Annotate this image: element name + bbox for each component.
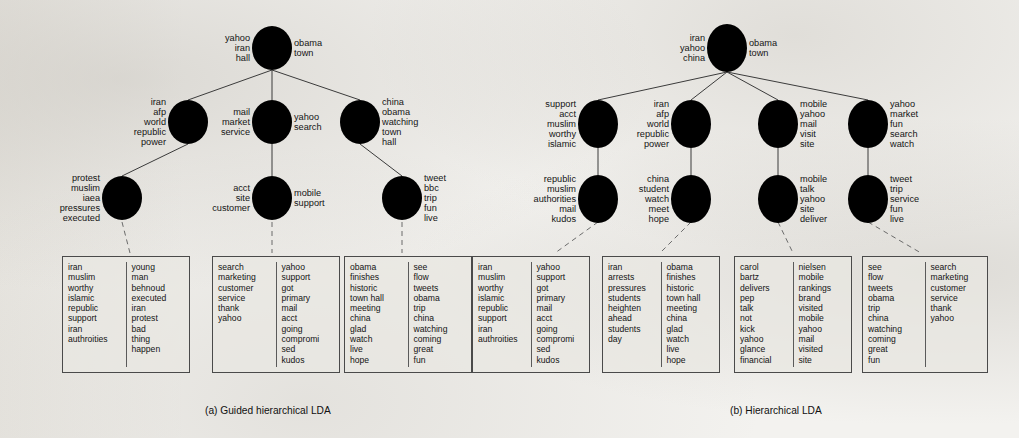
topic-word: hope <box>350 355 403 365</box>
topic-word: yahoo <box>218 313 271 323</box>
topic-node[interactable] <box>168 100 208 144</box>
topic-word: support <box>68 313 121 323</box>
topic-word: not <box>740 313 788 323</box>
topic-word-column: obamafinisheshistorictown hallmeetingchi… <box>345 262 408 367</box>
topic-word: finishes <box>667 272 715 282</box>
topic-node-word: iran <box>654 99 669 109</box>
topic-node[interactable] <box>758 175 798 223</box>
topic-word: islamic <box>478 293 526 303</box>
topic-word: man <box>132 272 185 282</box>
topic-word: trip <box>414 303 467 313</box>
topic-node[interactable] <box>252 100 292 144</box>
topic-word: watching <box>414 324 467 334</box>
topic-word: mail <box>282 303 335 313</box>
topic-node-word: pressures <box>60 203 101 213</box>
topic-node-word: fun <box>890 204 903 214</box>
topic-word: islamic <box>68 293 121 303</box>
topic-node-word: hope <box>649 214 669 224</box>
topic-word: glad <box>350 324 403 334</box>
topic-node-word: mobile <box>294 188 321 198</box>
tree-edge <box>727 72 778 100</box>
topic-node-word: muslim <box>547 119 576 129</box>
topic-node[interactable] <box>252 26 292 70</box>
topic-node[interactable] <box>340 100 380 144</box>
topic-word: marketing <box>218 272 271 282</box>
topic-node-word: watch <box>889 139 914 149</box>
topic-word: going <box>282 324 335 334</box>
tree-edge <box>727 72 868 100</box>
topic-node-word: power <box>141 137 166 147</box>
topic-node-word: trip <box>890 184 903 194</box>
topic-word: hope <box>667 355 715 365</box>
topic-node[interactable] <box>252 176 292 220</box>
topic-node-word: live <box>424 213 438 223</box>
topic-node-word: kudos <box>551 214 576 224</box>
topic-word: mobile <box>799 313 847 323</box>
topic-node-word: market <box>222 117 251 127</box>
topic-word: day <box>608 334 656 344</box>
topic-word: acct <box>282 313 335 323</box>
topic-leader-line <box>122 222 130 253</box>
topic-node[interactable] <box>707 24 747 72</box>
figure-caption-a: (a) Guided hierarchical LDA <box>205 405 331 416</box>
topic-node-word: fun <box>890 119 903 129</box>
topic-word: search <box>218 262 271 272</box>
figure-hierarchical-lda: yahooiranhallobamatowniranafpworldrepubl… <box>0 0 1019 438</box>
topic-node-word: acct <box>233 183 250 193</box>
topic-node[interactable] <box>671 100 711 148</box>
topic-word: kudos <box>282 355 335 365</box>
topic-word: rankings <box>799 283 847 293</box>
topic-node-word: obama <box>382 107 411 117</box>
topic-word: brand <box>799 293 847 303</box>
topic-node-word: republic <box>544 174 577 184</box>
topic-word-box: seeflowtweetsobamatripchinawatchingcomin… <box>862 256 988 373</box>
topic-node-word: mobile <box>800 174 827 184</box>
topic-word: service <box>218 293 271 303</box>
topic-node[interactable] <box>578 175 618 223</box>
topic-node[interactable] <box>671 175 711 223</box>
topic-word: great <box>868 344 920 354</box>
topic-word: obama <box>868 293 920 303</box>
topic-word: tweets <box>868 283 920 293</box>
tree-edge <box>360 144 402 176</box>
topic-word: sed <box>537 344 585 354</box>
topic-word-box: carolbartzdeliverspeptalknotkickyahoogla… <box>734 256 852 373</box>
topic-node[interactable] <box>848 100 888 148</box>
topic-word: meeting <box>667 303 715 313</box>
topic-word-box: searchmarketingcustomerservicethankyahoo… <box>212 256 340 373</box>
topic-node-word: tweet <box>424 173 446 183</box>
topic-node-word: town <box>749 48 768 58</box>
topic-word: bad <box>132 324 185 334</box>
topic-node-word: yahoo <box>680 43 705 53</box>
topic-word: thank <box>218 303 271 313</box>
topic-word: obama <box>350 262 403 272</box>
topic-word: visited <box>799 303 847 313</box>
topic-node-word: iran <box>690 33 705 43</box>
topic-word: trip <box>868 303 920 313</box>
topic-word-column: yahoosupportgotprimarymailacctgoingcompr… <box>276 262 340 367</box>
topic-node-word: live <box>890 214 904 224</box>
topic-word: pressures <box>608 283 656 293</box>
topic-node[interactable] <box>758 100 798 148</box>
topic-word: marketing <box>931 272 983 282</box>
topic-node[interactable] <box>578 100 618 148</box>
topic-node-word: mail <box>233 107 250 117</box>
topic-node[interactable] <box>102 176 142 220</box>
topic-node-word: tweet <box>890 174 912 184</box>
topic-node[interactable] <box>382 176 422 220</box>
topic-word: finishes <box>350 272 403 282</box>
topic-word: compromi <box>282 334 335 344</box>
topic-word: customer <box>931 283 983 293</box>
topic-word: financial <box>740 355 788 365</box>
topic-node-word: protest <box>72 173 101 183</box>
topic-word: iran <box>68 262 121 272</box>
topic-node-word: obama <box>294 38 323 48</box>
topic-word: got <box>282 283 335 293</box>
topic-node[interactable] <box>848 175 888 223</box>
topic-word: iran <box>608 262 656 272</box>
topic-word: protest <box>132 313 185 323</box>
topic-word: worthy <box>478 283 526 293</box>
topic-word: yahoo <box>282 262 335 272</box>
topic-word: watch <box>667 334 715 344</box>
figure-caption-b: (b) Hierarchical LDA <box>730 405 822 416</box>
